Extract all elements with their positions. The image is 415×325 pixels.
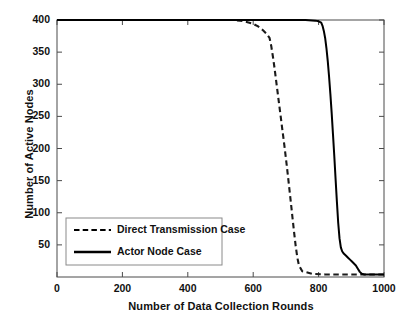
- y-tick-label: 100: [16, 206, 50, 218]
- y-tick-label: 250: [16, 109, 50, 121]
- x-tick-label: 800: [294, 282, 344, 294]
- x-tick-label: 600: [228, 282, 278, 294]
- x-tick-label: 1000: [359, 282, 409, 294]
- x-tick-label: 0: [32, 282, 82, 294]
- y-tick-label: 200: [16, 142, 50, 154]
- legend-label-2: Actor Node Case: [117, 245, 202, 257]
- y-tick-label: 300: [16, 77, 50, 89]
- y-tick-label: 350: [16, 45, 50, 57]
- x-axis-label: Number of Data Collection Rounds: [57, 300, 385, 312]
- x-tick-label: 400: [163, 282, 213, 294]
- y-tick-label: 150: [16, 174, 50, 186]
- y-tick-label: 50: [16, 238, 50, 250]
- y-tick-label: 400: [16, 13, 50, 25]
- x-tick-label: 200: [97, 282, 147, 294]
- figure-container: Number of Active Nodes Number of Data Co…: [0, 0, 415, 325]
- legend-label-1: Direct Transmission Case: [117, 223, 245, 235]
- chart-plot-area: [0, 0, 415, 325]
